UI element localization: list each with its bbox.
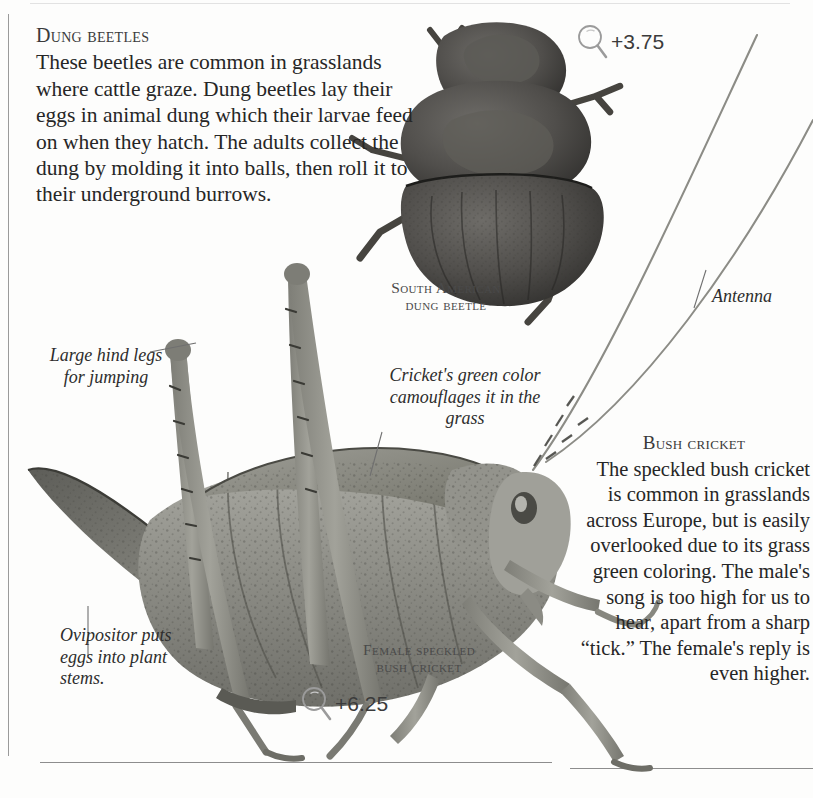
bush-cricket-caption: Female speckled bush cricket xyxy=(355,641,483,676)
annotation-hind-legs: Large hind legs for jumping xyxy=(46,345,166,388)
dung-beetle-body: These beetles are common in grasslands w… xyxy=(36,50,413,206)
bush-cricket-body: The speckled bush cricket is common in g… xyxy=(581,458,810,685)
magnification-badge-beetle: +3.75 xyxy=(576,24,664,60)
bush-cricket-heading: Bush cricket xyxy=(578,430,810,456)
bush-cricket-text-block: Bush cricket The speckled bush cricket i… xyxy=(578,430,810,687)
book-page: Dung beetles These beetles are common in… xyxy=(0,0,813,798)
magnifier-icon xyxy=(300,686,334,722)
annotation-camouflage: Cricket's green color camouflages it in … xyxy=(385,365,545,430)
annotation-antenna: Antenna xyxy=(712,286,812,308)
magnification-value-cricket: +6.25 xyxy=(335,692,388,716)
page-bottom-rule-right xyxy=(570,768,813,769)
magnifier-icon xyxy=(576,24,610,60)
page-bottom-rule-left xyxy=(40,762,552,763)
magnification-badge-cricket: +6.25 xyxy=(300,686,388,722)
page-top-rule xyxy=(30,3,790,4)
page-left-rule xyxy=(8,14,9,756)
magnification-value-beetle: +3.75 xyxy=(611,30,664,54)
dung-beetle-heading: Dung beetles xyxy=(36,22,428,48)
dung-beetle-caption: South American dung beetle xyxy=(382,279,510,314)
annotation-ovipositor: Ovipositor puts eggs into plant stems. xyxy=(60,625,200,690)
dung-beetle-text-block: Dung beetles These beetles are common in… xyxy=(36,22,428,208)
